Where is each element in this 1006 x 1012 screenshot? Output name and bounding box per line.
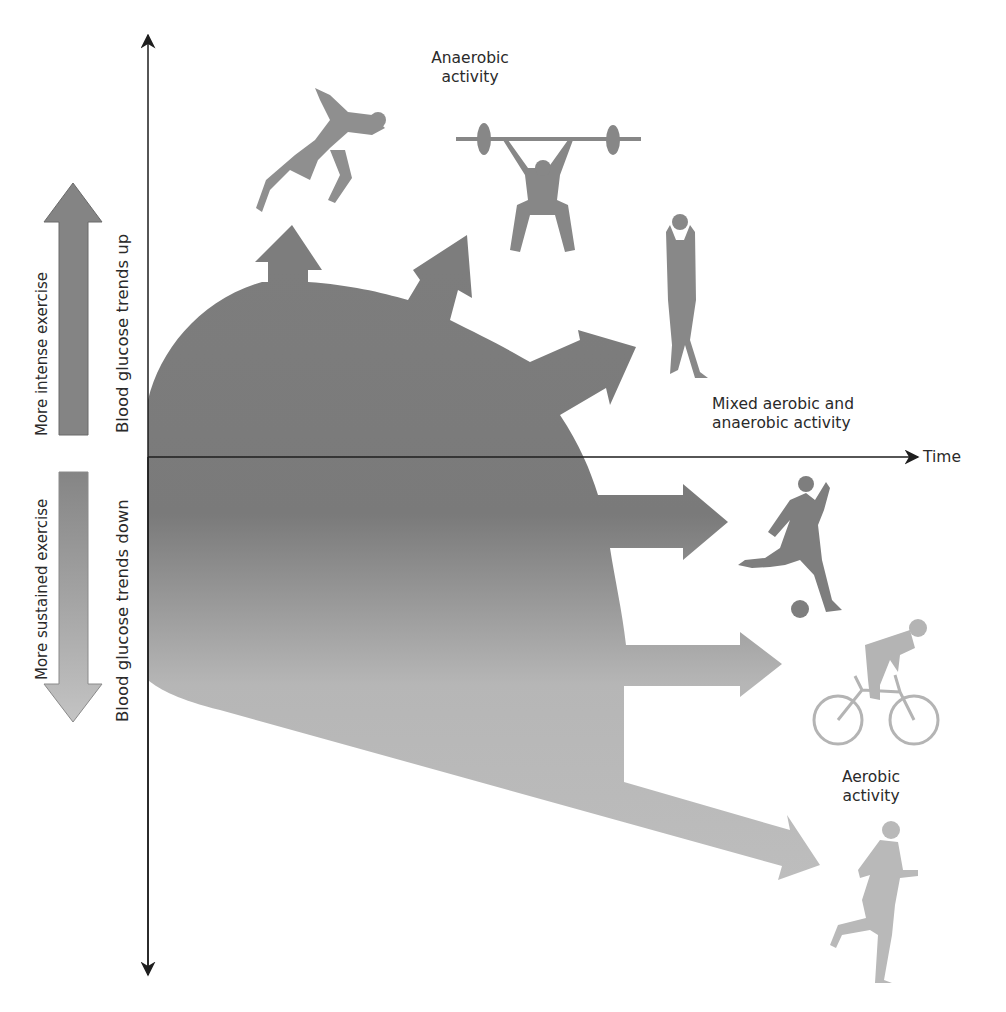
- cyclist-body: [865, 619, 927, 700]
- aerobic-activity-label: Aerobic activity: [826, 768, 916, 806]
- exercise-glucose-diagram: [0, 0, 1006, 1012]
- y-axis-up-label: Blood glucose trends up: [113, 234, 132, 433]
- anaerobic-activity-label: Anaerobic activity: [415, 49, 525, 87]
- basketball-player-icon: [666, 214, 708, 378]
- mixed-activity-label: Mixed aerobic and anaerobic activity: [712, 395, 854, 433]
- glucose-response-shape: [148, 225, 820, 880]
- runner-icon: [830, 821, 918, 983]
- more-sustained-arrow: [44, 472, 102, 722]
- weightlifter-icon: [456, 123, 641, 252]
- y-axis-down-label: Blood glucose trends down: [113, 499, 132, 722]
- more-sustained-exercise-label: More sustained exercise: [33, 499, 51, 680]
- sprinter-icon: [256, 88, 386, 212]
- more-intense-arrow: [44, 183, 102, 435]
- x-axis-label: Time: [923, 448, 961, 467]
- soccer-player-icon: [738, 476, 842, 618]
- more-intense-exercise-label: More intense exercise: [33, 272, 51, 436]
